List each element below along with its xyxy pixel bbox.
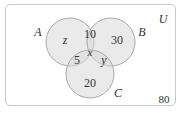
region-b-only: 30 — [111, 34, 123, 46]
set-b-label: B — [138, 26, 145, 38]
region-b-and-c: y — [101, 54, 106, 66]
region-a-only: z — [63, 34, 68, 46]
set-c-label: C — [114, 87, 122, 99]
universe-label: U — [159, 13, 168, 25]
region-a-and-b-and-c: x — [88, 47, 93, 58]
region-a-and-c: 5 — [74, 54, 80, 66]
region-c-only: 20 — [84, 77, 96, 89]
region-a-and-b: 10 — [84, 28, 96, 40]
set-a-label: A — [34, 26, 41, 38]
outside-value: 80 — [159, 94, 170, 105]
